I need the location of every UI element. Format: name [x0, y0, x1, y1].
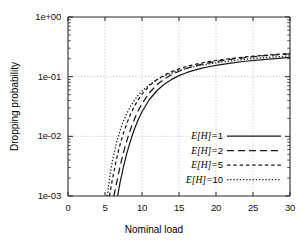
legend-value: 5 — [218, 159, 223, 170]
legend-label-2: E[H]=2 — [100, 145, 223, 156]
legend-symbol: E[H]= — [191, 131, 217, 141]
y-axis-title: Dropping probability — [9, 37, 20, 177]
x-tick-label: 25 — [238, 202, 268, 213]
legend-value: 2 — [218, 145, 223, 156]
legend-symbol: E[H]= — [186, 175, 212, 185]
x-tick-label: 20 — [201, 202, 231, 213]
y-tick-label: 1e+00 — [35, 11, 61, 22]
x-tick-label: 15 — [164, 202, 194, 213]
legend-symbol: E[H]= — [191, 160, 217, 170]
legend-value: 1 — [218, 130, 223, 141]
chart-figure: 1e+001e-011e-021e-03051015202530 Nominal… — [0, 0, 308, 245]
x-tick-label: 10 — [127, 202, 157, 213]
x-tick-label: 0 — [53, 202, 83, 213]
y-tick-label: 1e-02 — [38, 130, 61, 141]
x-tick-label: 5 — [90, 202, 120, 213]
legend-value: 10 — [212, 174, 223, 185]
legend-line-samples — [227, 136, 281, 180]
y-tick-label: 1e-01 — [38, 71, 61, 82]
x-axis-title: Nominal load — [0, 224, 308, 235]
x-tick-label: 30 — [275, 202, 305, 213]
legend-label-1: E[H]=1 — [100, 130, 223, 141]
legend-symbol: E[H]= — [191, 146, 217, 156]
legend-label-4: E[H]=10 — [100, 174, 223, 185]
legend-label-3: E[H]=5 — [100, 159, 223, 170]
y-tick-label: 1e-03 — [38, 190, 61, 201]
